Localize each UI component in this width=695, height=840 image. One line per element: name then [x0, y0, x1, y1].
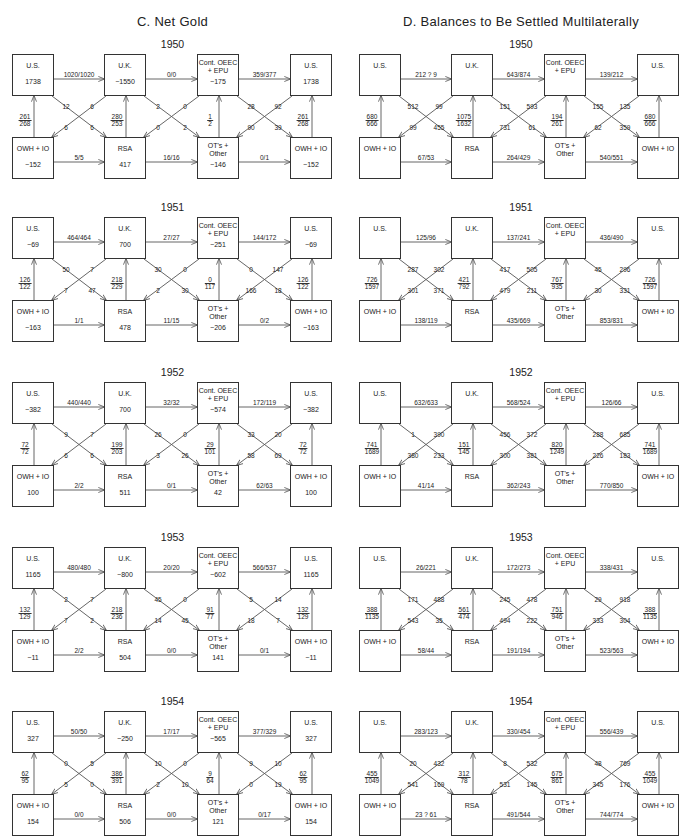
node-name: RSA [105, 145, 145, 153]
flow-label-bottom: 62/63 [256, 482, 272, 489]
cross-flow-label: 7 [90, 596, 94, 603]
node-us-left: U.S. [359, 711, 401, 753]
cross-flow-label: 331 [620, 287, 631, 294]
node-name: Cont. OEEC+ EPU [198, 387, 238, 403]
node-ots-other: OT's +Other [544, 137, 586, 179]
vertical-flow-fraction: 218229 [111, 277, 124, 291]
year-label: 1952 [347, 366, 695, 378]
node-name: OWH + IO [360, 308, 400, 316]
cross-flow-label: 26 [154, 431, 161, 438]
node-name: OT's +Other [545, 635, 585, 651]
cross-flow-label: 512 [408, 103, 419, 110]
node-name: U.S. [13, 62, 53, 70]
fraction-denominator: 101 [205, 449, 216, 456]
flow-label-bottom: 5/5 [74, 154, 83, 161]
cross-flow-label: 20 [274, 431, 281, 438]
fraction-denominator: 268 [297, 121, 310, 128]
flow-diagram: U.S.327U.K.−250Cont. OEEC+ EPU−565U.S.32… [0, 711, 345, 840]
cross-flow-label: 9 [249, 760, 253, 767]
node-value: −69 [291, 241, 331, 249]
year-label: 1950 [0, 38, 345, 50]
node-name: Cont. OEEC+ EPU [545, 222, 585, 238]
fraction-denominator: 203 [111, 449, 124, 456]
flow-label-bottom: 0/0 [167, 647, 176, 654]
cross-flow-label: 5 [249, 596, 253, 603]
node-name: OWH + IO [638, 473, 678, 481]
node-ots-other: OT's +Other [544, 630, 586, 672]
flow-label-bottom: 2/2 [74, 482, 83, 489]
cross-flow-label: 0 [183, 103, 187, 110]
fraction-denominator: 1689 [643, 449, 657, 456]
node-name: U.K. [452, 62, 492, 70]
flow-label-top: 359/377 [253, 71, 277, 78]
flow-label-bottom: 435/669 [507, 317, 531, 324]
year-label: 1953 [347, 531, 695, 543]
node-name: Cont. OEEC+ EPU [545, 716, 585, 732]
vertical-flow-fraction: 132129 [19, 607, 32, 621]
vertical-flow-fraction: 767935 [551, 277, 564, 291]
node-name: OWH + IO [360, 145, 400, 153]
node-owh-io-left: OWH + IO154 [12, 794, 54, 836]
cross-flow-label: 390 [434, 431, 445, 438]
cross-flow-label: 2 [90, 617, 94, 624]
flow-diagram: U.S.U.K.Cont. OEEC+ EPUU.S.OWH + IORSAOT… [347, 711, 695, 840]
flow-label-bottom: 744/774 [600, 811, 624, 818]
node-name: RSA [452, 638, 492, 646]
node-owh-io-left: OWH + IO [359, 794, 401, 836]
cross-flow-label: 593 [527, 103, 538, 110]
cross-flow-label: 685 [620, 431, 631, 438]
vertical-flow-fraction: 421792 [458, 277, 471, 291]
node-rsa: RSA478 [104, 300, 146, 342]
node-uk: U.K.−1550 [104, 54, 146, 96]
vertical-flow-fraction: 126122 [19, 277, 32, 291]
node-uk: U.K.−250 [104, 711, 146, 753]
cross-flow-label: 2 [64, 596, 68, 603]
node-name: OT's +Other [545, 142, 585, 158]
node-name-line2: Other [198, 643, 238, 651]
node-name: U.S. [13, 225, 53, 233]
node-us-left: U.S.−69 [12, 217, 54, 259]
flow-label-bottom: 0/0 [74, 811, 83, 818]
node-ots-other: OT's +Other [544, 794, 586, 836]
flow-label-bottom: 16/16 [163, 154, 179, 161]
panel-title: D. Balances to Be Settled Multilaterally [347, 14, 695, 29]
cross-flow-label: 20 [409, 760, 416, 767]
node-value: 417 [105, 161, 145, 169]
node-ots-other: OT's +Other−206 [197, 300, 239, 342]
node-rsa: RSA [451, 630, 493, 672]
node-name-line2: Other [198, 150, 238, 158]
flow-label-top: 137/241 [507, 234, 531, 241]
flow-label-bottom: 138/119 [414, 317, 437, 324]
flow-label-top: 440/440 [67, 399, 91, 406]
flow-label-bottom: 540/551 [600, 154, 624, 161]
node-name: U.K. [452, 225, 492, 233]
cross-flow-label: 478 [527, 596, 538, 603]
node-us-right: U.S. [637, 547, 679, 589]
vertical-flow-fraction: 31278 [458, 771, 471, 785]
cross-flow-label: 50 [62, 266, 69, 273]
node-value: −602 [198, 571, 238, 579]
cross-flow-label: 380 [408, 452, 419, 459]
flow-diagram: U.S.U.K.Cont. OEEC+ EPUU.S.OWH + IORSAOT… [347, 217, 695, 352]
cross-flow-label: 359 [620, 124, 631, 131]
node-name: U.S. [360, 555, 400, 563]
node-name-line2: + EPU [545, 560, 585, 568]
node-name: OT's +Other [198, 142, 238, 158]
flow-label-bottom: 0/2 [260, 317, 269, 324]
cross-flow-label: 333 [593, 617, 604, 624]
flow-label-bottom: 191/194 [507, 647, 531, 654]
node-name: Cont. OEEC+ EPU [545, 552, 585, 568]
node-name: U.K. [105, 719, 145, 727]
flow-label-bottom: 491/544 [507, 811, 531, 818]
node-us-left: U.S.1738 [12, 54, 54, 96]
cross-flow-label: 479 [500, 287, 511, 294]
cross-flow-label: 532 [527, 760, 538, 767]
cross-flow-label: 29 [594, 596, 601, 603]
cross-flow-label: 45 [181, 617, 188, 624]
cross-flow-label: 0 [156, 124, 160, 131]
flow-label-bottom: 523/563 [600, 647, 624, 654]
cross-flow-label: 12 [62, 103, 69, 110]
fraction-denominator: 666 [644, 121, 657, 128]
node-cont-oeec-epu: Cont. OEEC+ EPU [544, 547, 586, 589]
node-owh-io-left: OWH + IO−163 [12, 300, 54, 342]
